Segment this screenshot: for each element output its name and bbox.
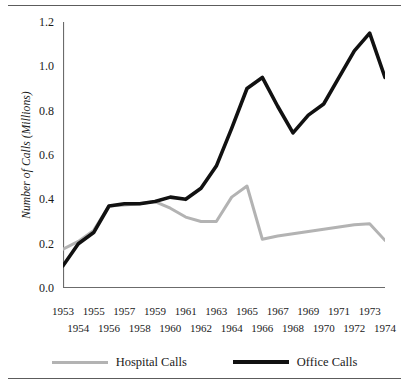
x-axis-tick-label: 1968: [276, 322, 310, 334]
legend-label: Office Calls: [297, 355, 358, 369]
x-axis-tick-label: 1973: [353, 305, 387, 317]
y-axis-tick-label: 0.6: [16, 149, 54, 161]
legend-line-swatch: [52, 361, 108, 364]
series-line-hospital-calls: [63, 186, 385, 249]
bottom-horizontal-rule: [8, 378, 401, 379]
x-axis-tick-label: 1956: [92, 322, 126, 334]
x-axis-tick-label: 1958: [123, 322, 157, 334]
chart-legend: Hospital CallsOffice Calls: [0, 352, 409, 372]
x-axis-tick-label: 1972: [337, 322, 371, 334]
x-axis-tick-label: 1974: [368, 322, 402, 334]
y-axis-tick-label: 1.0: [16, 60, 54, 72]
x-axis-tick-label: 1954: [61, 322, 95, 334]
x-axis-tick-label: 1971: [322, 305, 356, 317]
legend-item-hospital-calls[interactable]: Hospital Calls: [52, 355, 187, 369]
x-axis-tick-label: 1955: [77, 305, 111, 317]
y-axis-tick-label: 0.4: [16, 193, 54, 205]
x-axis-tick-label: 1962: [184, 322, 218, 334]
x-axis-tick-label: 1963: [199, 305, 233, 317]
chart-figure: Number of Calls (Millions) 1.21.00.80.60…: [0, 0, 409, 388]
axis-lines: [63, 22, 385, 288]
x-axis-tick-label: 1966: [245, 322, 279, 334]
x-axis-tick-label: 1953: [46, 305, 80, 317]
x-axis-tick-label: 1964: [215, 322, 249, 334]
y-axis-tick-label: 0.0: [16, 282, 54, 294]
data-series-group: [63, 33, 385, 266]
x-axis-tick-label: 1961: [169, 305, 203, 317]
legend-label: Hospital Calls: [116, 355, 187, 369]
x-axis-tick-label: 1967: [261, 305, 295, 317]
legend-item-office-calls[interactable]: Office Calls: [233, 355, 358, 369]
y-axis-tick-label: 1.2: [16, 16, 54, 28]
x-axis-tick-label: 1965: [230, 305, 264, 317]
top-horizontal-rule: [8, 5, 401, 6]
x-axis-tick-label: 1957: [107, 305, 141, 317]
x-axis-tick-label: 1970: [307, 322, 341, 334]
y-axis-tick-label: 0.2: [16, 238, 54, 250]
legend-line-swatch: [233, 360, 289, 364]
series-line-office-calls: [63, 33, 385, 266]
plot-area: [63, 22, 385, 288]
y-axis-tick-label: 0.8: [16, 105, 54, 117]
x-axis-tick-label: 1959: [138, 305, 172, 317]
x-axis-tick-label: 1960: [153, 322, 187, 334]
x-axis-tick-label: 1969: [291, 305, 325, 317]
series-canvas: [63, 22, 385, 288]
